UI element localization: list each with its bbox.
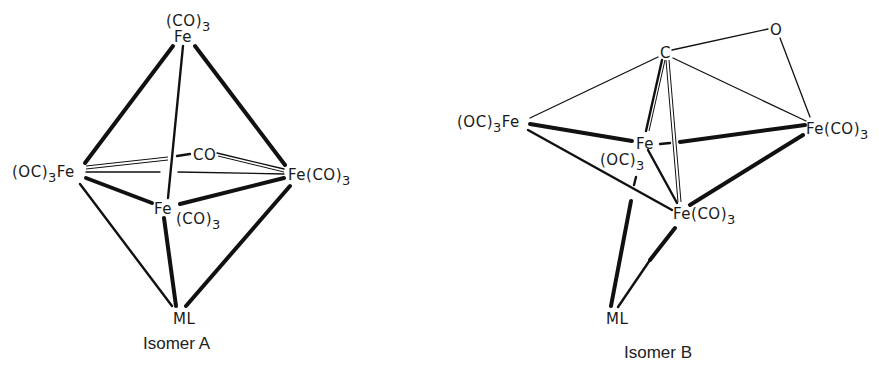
isomer-a-caption: Isomer A — [143, 334, 211, 353]
ml-label: ML — [173, 310, 195, 328]
isomer-b: C O (OC)3Fe Fe (OC)3 Fe(CO)3 Fe(CO)3 ML … — [457, 21, 869, 362]
bond-o-right-fe — [780, 38, 810, 117]
top-fe: Fe — [174, 28, 192, 46]
bond-right-center — [180, 178, 284, 204]
center-fe-ligand: (OC)3 — [600, 151, 645, 173]
isomer-b-bonds — [528, 29, 810, 307]
bond-c-o — [672, 29, 768, 50]
bond-left-right-2 — [178, 172, 284, 174]
bond-co-stub — [177, 154, 190, 156]
isomer-b-caption: Isomer B — [624, 343, 692, 362]
bond-co-right-b — [218, 156, 284, 172]
center-fe: Fe — [154, 200, 172, 218]
bond-center-bottom-fe — [648, 150, 677, 203]
bond-c-left-fe — [530, 57, 658, 118]
bond-center-ml — [164, 218, 176, 306]
center-fe: Fe — [636, 135, 654, 153]
bottom-fe-label: Fe(CO)3 — [673, 205, 736, 227]
left-fe-label: (OC)3Fe — [457, 113, 520, 135]
bond-c-center-fe-b — [649, 60, 665, 131]
bond-c-right-fe — [673, 58, 806, 121]
ml-label: ML — [606, 310, 628, 328]
bond-center-ml-stub — [634, 177, 636, 185]
center-fe-ligand: (CO)3 — [176, 210, 221, 232]
bond-top-left — [85, 46, 173, 163]
c-atom: C — [660, 44, 671, 62]
isomer-diagram: (CO)3 Fe (OC)3Fe CO Fe(CO)3 Fe (CO)3 ML … — [0, 0, 879, 365]
bond-c-bottom-fe-a — [666, 60, 678, 202]
bond-right-bottom-fe — [690, 135, 803, 205]
isomer-a-bonds — [80, 46, 290, 306]
bridging-co: CO — [193, 146, 216, 164]
left-fe-label: (OC)3Fe — [12, 163, 75, 185]
right-fe-label: Fe(CO)3 — [806, 120, 869, 142]
bond-center-right-fe — [680, 125, 805, 142]
bond-bottom-ml — [618, 260, 650, 307]
bond-center-stub — [660, 143, 670, 144]
bond-left-center — [86, 178, 152, 203]
bond-c-center-fe — [646, 60, 662, 131]
bond-right-ml — [186, 186, 290, 306]
isomer-a: (CO)3 Fe (OC)3Fe CO Fe(CO)3 Fe (CO)3 ML … — [12, 12, 351, 353]
right-fe-label: Fe(CO)3 — [288, 166, 351, 188]
bond-bottom-ml-thick — [650, 228, 675, 260]
bond-top-center — [168, 46, 183, 198]
bond-c-bottom-fe-b — [669, 60, 681, 202]
bond-co-right-a — [217, 153, 284, 169]
o-atom: O — [770, 21, 782, 39]
